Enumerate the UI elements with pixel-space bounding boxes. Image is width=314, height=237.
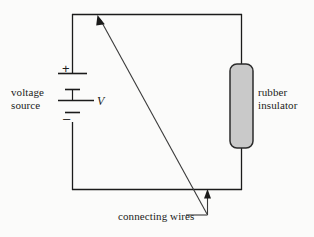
vertical-leader-arrowhead [204,189,211,199]
circuit-diagram-figure: voltage source rubber insulator connecti… [0,0,314,237]
rubber-insulator-label: rubber insulator [258,86,297,111]
rubber-insulator-body [230,64,253,148]
voltage-symbol-label: V [97,95,104,108]
diagonal-leader-arrowhead [96,15,105,26]
negative-terminal-label: – [63,113,70,126]
positive-terminal-label: + [62,63,70,76]
voltage-source-label: voltage source [11,86,44,111]
diagonal-leader-line [100,19,207,214]
circuit-diagram-svg [0,0,314,237]
connecting-wires-label: connecting wires [118,210,194,223]
